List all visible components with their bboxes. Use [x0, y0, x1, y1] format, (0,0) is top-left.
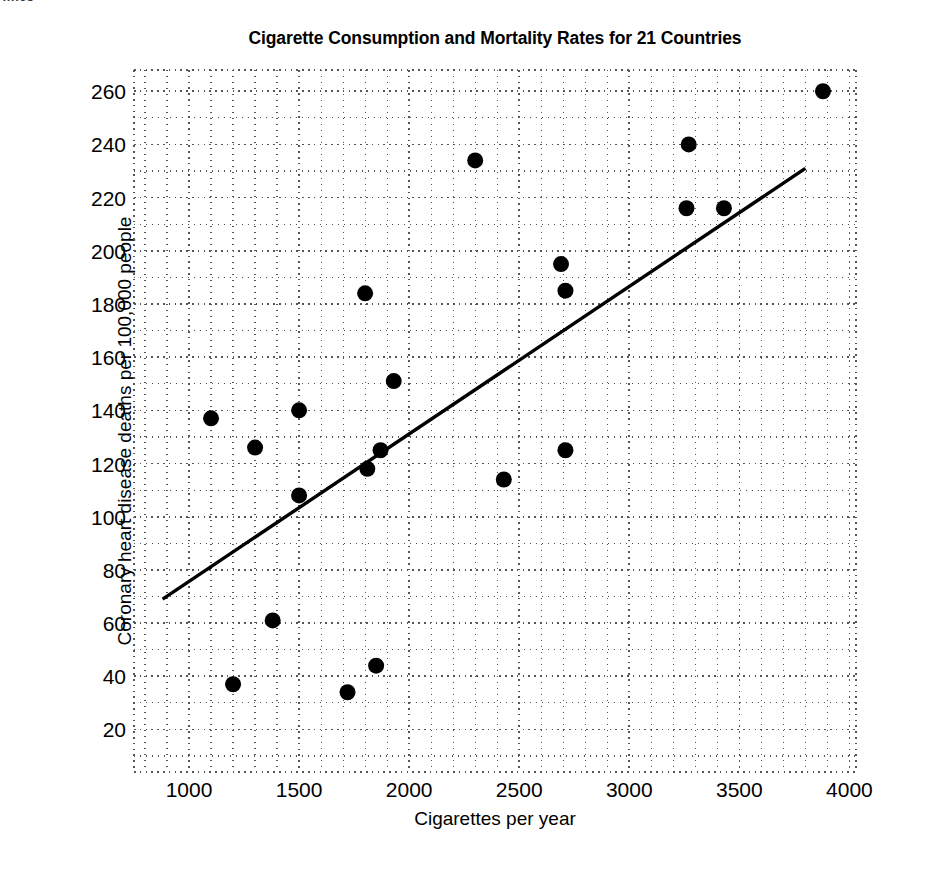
- data-point: [679, 200, 695, 216]
- y-tick-label: 40: [78, 666, 126, 687]
- data-point: [557, 283, 573, 299]
- y-tick-label: 200: [78, 241, 126, 262]
- y-tick-label: 80: [78, 560, 126, 581]
- data-point: [496, 472, 512, 488]
- y-tick-label: 220: [78, 188, 126, 209]
- y-tick-label: 240: [78, 134, 126, 155]
- y-tick-label: 140: [78, 400, 126, 421]
- y-tick-label: 160: [78, 347, 126, 368]
- data-point: [265, 612, 281, 628]
- y-tick-label: 20: [78, 719, 126, 740]
- x-tick-label: 3500: [689, 778, 789, 802]
- data-point: [815, 83, 831, 99]
- data-point: [681, 136, 697, 152]
- data-point: [368, 658, 384, 674]
- x-tick-label: 2000: [359, 778, 459, 802]
- y-axis-tick-labels: 20406080100120140160180200220240260: [74, 70, 126, 772]
- data-point: [225, 676, 241, 692]
- x-tick-label: 3000: [579, 778, 679, 802]
- y-tick-label: 120: [78, 454, 126, 475]
- data-point: [359, 461, 375, 477]
- y-tick-label: 260: [78, 81, 126, 102]
- x-tick-label: 1000: [139, 778, 239, 802]
- scatter-chart-figure: Cigarette Consumption and Mortality Rate…: [0, 0, 928, 876]
- data-point: [386, 373, 402, 389]
- data-point: [291, 402, 307, 418]
- data-point: [373, 442, 389, 458]
- data-point: [340, 684, 356, 700]
- x-axis-title: Cigarettes per year: [134, 808, 856, 830]
- data-point: [467, 152, 483, 168]
- y-tick-label: 100: [78, 507, 126, 528]
- data-points-layer: [134, 70, 856, 772]
- y-tick-label: 180: [78, 294, 126, 315]
- data-point: [553, 256, 569, 272]
- data-point: [357, 285, 373, 301]
- data-point: [716, 200, 732, 216]
- x-tick-label: 4000: [799, 778, 899, 802]
- y-tick-label: 60: [78, 613, 126, 634]
- data-point: [557, 442, 573, 458]
- plot-area: [134, 70, 856, 772]
- x-tick-label: 1500: [249, 778, 349, 802]
- x-tick-label: 2500: [469, 778, 569, 802]
- x-axis-tick-labels: 1000150020002500300035004000: [134, 778, 856, 808]
- data-point: [203, 410, 219, 426]
- chart-title: Cigarette Consumption and Mortality Rate…: [134, 28, 856, 49]
- data-point: [247, 440, 263, 456]
- data-point: [291, 487, 307, 503]
